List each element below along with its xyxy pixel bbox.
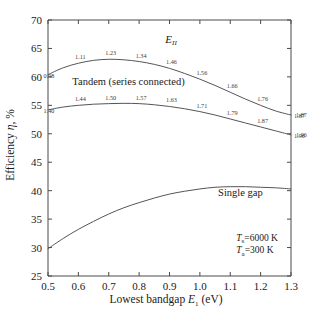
point-label: 1.44: [75, 95, 86, 102]
x-tick-label: 0.8: [132, 280, 146, 292]
point-label: 1.76: [257, 95, 268, 102]
x-tick-label: 1.2: [254, 280, 268, 292]
x-axis-title: Lowest bandgap E1 (eV): [109, 293, 222, 308]
tandem-curve-label: Tandem (series connected): [72, 76, 185, 88]
point-label: 1.56: [196, 69, 207, 76]
y-tick-label: 35: [31, 213, 43, 225]
sun-temperature: Ts=6000 K: [236, 233, 278, 246]
x-tick-label: 0.6: [72, 280, 86, 292]
y-axis-title: Efficiency η, %: [4, 109, 17, 181]
e-two-label: EII: [164, 33, 177, 48]
y-tick-label: 65: [31, 42, 43, 54]
single-gap-curve-label: Single gap: [218, 187, 263, 198]
point-label: 0.98: [44, 72, 55, 79]
ambient-temperature: Ta=300 K: [236, 245, 273, 258]
point-label: 1.57: [136, 94, 147, 101]
y-tick-label: 40: [31, 185, 43, 197]
point-label: 1.34: [136, 52, 147, 59]
point-label: 1.11: [75, 53, 86, 60]
point-label: 1.79: [227, 109, 238, 116]
y-tick-label: 30: [31, 242, 43, 254]
data-curves: [48, 59, 291, 248]
point-label: 1.50: [105, 94, 116, 101]
x-axis-tick-labels: 0.50.60.70.80.91.01.11.21.3: [41, 280, 298, 292]
x-tick-label: 0.9: [163, 280, 177, 292]
point-label: 1.40: [44, 107, 55, 114]
y-tick-label: 60: [31, 71, 43, 83]
x-tick-label: 1.3: [284, 280, 298, 292]
point-label: 1.63: [166, 96, 177, 103]
x-tick-label: 0.7: [102, 280, 116, 292]
right-edge-labels: 1.871.96: [294, 112, 305, 139]
y-tick-label: 50: [31, 128, 43, 140]
plot-annotations: EIITandem (series connected)Single gapTs…: [72, 33, 278, 258]
y-tick-label: 55: [31, 99, 43, 111]
x-tick-label: 1.1: [223, 280, 237, 292]
right-edge-label: 1.96: [294, 132, 305, 139]
point-label: 1.71: [196, 102, 207, 109]
point-label: 1.66: [227, 82, 238, 89]
point-label: 1.87: [257, 117, 268, 124]
x-tick-label: 0.5: [41, 280, 55, 292]
point-label: 1.46: [166, 58, 177, 65]
x-tick-label: 1.0: [193, 280, 207, 292]
point-label: 1.23: [105, 49, 116, 56]
y-tick-label: 70: [31, 14, 43, 26]
y-tick-label: 45: [31, 156, 43, 168]
y-axis-tick-labels: 25303540455055606570: [31, 14, 43, 282]
curve-tandem-series-connected-lower: [48, 103, 291, 135]
efficiency-vs-bandgap-chart: 25303540455055606570 0.50.60.70.80.91.01…: [0, 0, 323, 321]
chart-svg: 25303540455055606570 0.50.60.70.80.91.01…: [0, 0, 323, 321]
right-edge-label: 1.87: [294, 112, 305, 119]
